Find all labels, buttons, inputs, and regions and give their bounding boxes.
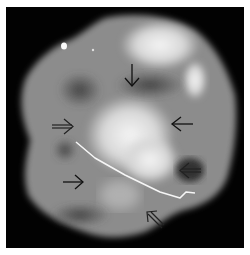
clip-marker — [61, 43, 67, 50]
radiograph-image — [6, 7, 244, 248]
specimen-radiograph — [6, 7, 244, 248]
